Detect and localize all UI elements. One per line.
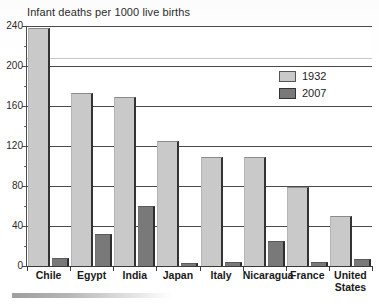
chart-plot-area <box>27 26 372 266</box>
bar-2007-france <box>311 262 328 266</box>
y-axis-line <box>26 26 27 267</box>
scan-artifact-bar <box>12 293 172 298</box>
x-category-label-united-states: United States <box>329 270 372 293</box>
y-tick-label-40: 40 <box>0 220 23 231</box>
x-tick-end <box>372 266 373 271</box>
legend-item-2007: 2007 <box>279 87 326 99</box>
bar-1932-egypt <box>71 93 93 266</box>
bar-1932-united-states <box>330 216 352 266</box>
chart-title: Infant deaths per 1000 live births <box>27 6 190 18</box>
scan-line-artifact <box>27 58 372 59</box>
bar-2007-india <box>138 206 155 266</box>
y-tick-label-240: 240 <box>0 20 23 31</box>
bar-1932-france <box>287 187 309 266</box>
bar-2007-chile <box>52 258 69 266</box>
bar-2007-nicaragua <box>268 241 285 266</box>
x-category-label-egypt: Egypt <box>70 270 113 282</box>
x-axis-line <box>26 266 372 267</box>
bar-1932-chile <box>28 28 50 266</box>
x-category-label-japan: Japan <box>156 270 199 282</box>
legend-swatch-2007 <box>279 88 296 99</box>
bar-2007-japan <box>181 263 198 266</box>
y-tick-label-80: 80 <box>0 180 23 191</box>
y-tick-label-200: 200 <box>0 60 23 71</box>
x-category-label-france: France <box>286 270 329 282</box>
gridline-200 <box>27 66 372 67</box>
bar-1932-india <box>114 97 136 266</box>
chart-legend: 1932 2007 <box>279 70 326 104</box>
x-category-label-india: India <box>113 270 156 282</box>
bar-1932-japan <box>157 141 179 266</box>
y-tick-label-0: 0 <box>0 260 23 271</box>
gridline-240 <box>27 26 372 27</box>
x-category-label-italy: Italy <box>200 270 243 282</box>
bar-2007-egypt <box>95 234 112 266</box>
x-category-label-chile: Chile <box>27 270 70 282</box>
y-tick-label-160: 160 <box>0 100 23 111</box>
bar-1932-nicaragua <box>244 157 266 266</box>
legend-label-2007: 2007 <box>302 87 326 99</box>
bar-2007-italy <box>225 262 242 266</box>
legend-label-1932: 1932 <box>302 70 326 82</box>
y-tick-label-120: 120 <box>0 140 23 151</box>
bar-1932-italy <box>201 157 223 266</box>
legend-swatch-1932 <box>279 71 296 82</box>
legend-item-1932: 1932 <box>279 70 326 82</box>
x-category-label-nicaragua: Nicaragua <box>243 270 286 282</box>
bar-2007-united-states <box>354 259 371 266</box>
